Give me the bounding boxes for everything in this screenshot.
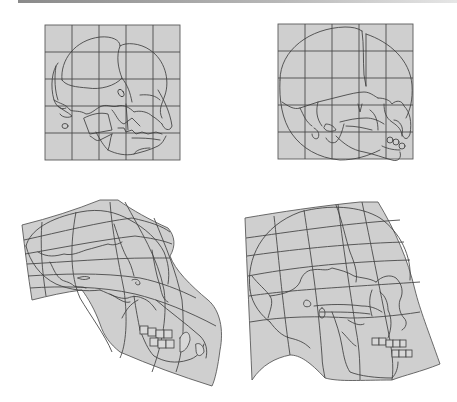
tooth (372, 338, 379, 345)
tooth (386, 340, 393, 347)
tooth (156, 330, 164, 338)
tooth (400, 340, 406, 347)
figure-canvas (0, 0, 457, 402)
panel-juvenile-human (278, 24, 413, 161)
tooth (164, 330, 172, 338)
tooth (150, 338, 158, 346)
tooth (399, 350, 406, 357)
tooth (406, 350, 412, 357)
panel-adult-chimp (22, 200, 222, 386)
tooth (158, 340, 166, 348)
deformed-grid-background (22, 200, 222, 386)
tooth (166, 340, 174, 348)
tooth (392, 350, 399, 357)
tooth (393, 340, 400, 347)
tooth (140, 326, 148, 334)
panel-adult-human (245, 202, 440, 381)
tooth (379, 338, 386, 345)
tooth (148, 328, 156, 336)
panel-juvenile-chimp (45, 25, 180, 160)
